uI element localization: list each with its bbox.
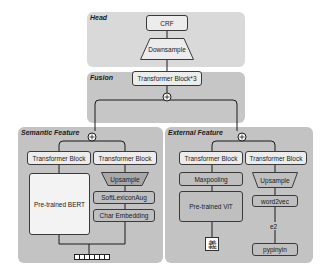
downsample-block: Downsample — [140, 38, 194, 60]
semantic-transformer-block-right: Transformer Block — [93, 151, 157, 165]
semantic-upsample-label: Upsample — [110, 176, 139, 183]
external-upsample-label: Upsample — [260, 177, 289, 184]
softlexiconaug-block: SoftLexiconAug — [93, 191, 155, 204]
external-transformer-block-right: Transformer Block — [245, 151, 307, 165]
glyph-character-image: 義 — [205, 237, 219, 251]
pretrained-bert-block: Pre-trained BERT — [29, 173, 90, 235]
word2vec-block: word2vec — [252, 195, 298, 207]
pypinyin-block: pypinyin — [252, 243, 298, 256]
crf-block: CRF — [146, 15, 188, 31]
e2-label: e2 — [269, 223, 278, 230]
semantic-transformer-block-left: Transformer Block — [27, 151, 91, 165]
pretrained-vit-block: Pre-trained ViT — [179, 191, 243, 222]
external-transformer-block-left: Transformer Block — [179, 151, 243, 165]
downsample-label: Downsample — [148, 46, 186, 53]
external-upsample-block: Upsample — [252, 172, 298, 188]
token-square — [104, 254, 110, 260]
token-sequence — [74, 254, 109, 260]
fusion-transformer-block: Transformer Block*3 — [132, 71, 202, 86]
maxpooling-block: Maxpooling — [179, 172, 243, 186]
semantic-upsample-block: Upsample — [101, 172, 149, 186]
char-embedding-block: Char Embedding — [93, 209, 155, 222]
